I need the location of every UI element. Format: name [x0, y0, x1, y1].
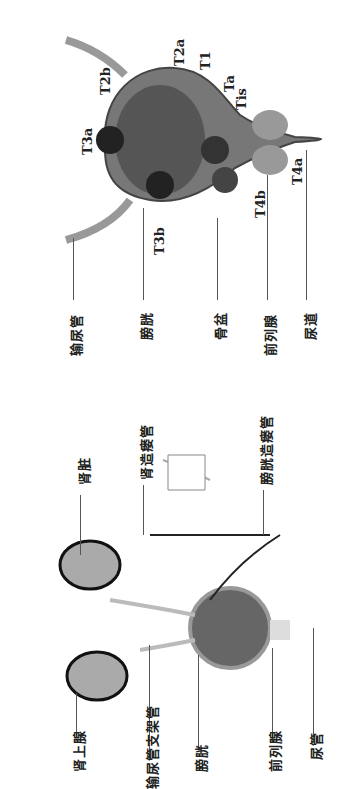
leader-cystostomy	[263, 490, 264, 535]
label-adrenal: 肾上腺	[69, 730, 88, 772]
leader-nephrostomy	[143, 485, 144, 535]
label-prostate-2: 前列腺	[265, 730, 284, 772]
label-cystostomy-tube: 膀胱造瘘管	[256, 415, 275, 485]
leader-bladder	[143, 208, 144, 300]
label-ureter: 输尿管	[66, 314, 85, 356]
leader-prostate2	[272, 648, 273, 743]
leader-urethra	[306, 150, 307, 300]
stage-t1: T1	[198, 51, 213, 70]
leader-kidney	[80, 495, 81, 555]
label-bladder: 膀胱	[136, 312, 155, 340]
leader-bladder2	[198, 655, 199, 750]
label-urethra: 尿道	[300, 312, 319, 340]
stage-t2b: T2b	[98, 67, 113, 95]
illustration	[0, 0, 352, 789]
label-kidney: 肾脏	[74, 457, 93, 485]
leader-pelvis	[217, 218, 218, 300]
leader-prostate	[267, 175, 268, 300]
label-catheter: 尿管	[306, 732, 325, 760]
label-nephrostomy-tube: 肾造瘘管	[136, 424, 155, 480]
stage-t4a: T4a	[290, 158, 305, 185]
stage-t3a: T3a	[80, 128, 95, 155]
stage-t3b: T3b	[152, 227, 167, 255]
leader-catheter	[313, 628, 314, 738]
label-pelvis: 骨盆	[210, 312, 229, 340]
stage-t2a: T2a	[172, 39, 187, 66]
label-ureteral-stent: 输尿管支架管	[142, 705, 161, 789]
stage-tis: Tis	[234, 88, 249, 110]
leader-ureter	[73, 238, 74, 300]
stage-t4b: T4b	[253, 190, 268, 218]
label-bladder-2: 膀胱	[191, 744, 210, 772]
label-prostate: 前列腺	[260, 314, 279, 356]
